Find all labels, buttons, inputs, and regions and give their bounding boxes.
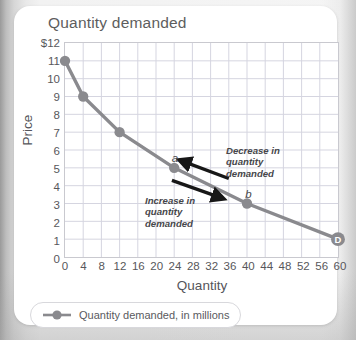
annotation-decrease-line1: Decrease in: [226, 145, 280, 156]
legend-label: Quantity demanded, in millions: [79, 309, 229, 321]
y-tick-label: 6: [54, 145, 60, 157]
annotation-arrows: [65, 43, 338, 257]
x-tick-label: 32: [205, 260, 218, 272]
x-tick-label: 16: [132, 260, 145, 272]
x-tick-label: 52: [297, 260, 310, 272]
annotation-decrease-line2: quantity: [226, 156, 280, 167]
annotation-increase: Increase in quantity demanded: [145, 195, 195, 229]
x-tick-label: 0: [62, 260, 68, 272]
point-label-b: b: [245, 188, 251, 200]
y-tick-label: 3: [54, 199, 60, 211]
annotation-increase-line2: quantity: [145, 206, 195, 217]
x-tick-label: 8: [98, 260, 104, 272]
y-tick-label: 7: [54, 127, 60, 139]
y-tick-label: 9: [54, 91, 60, 103]
y-tick-label: 5: [54, 163, 60, 175]
x-tick-label: 20: [150, 260, 163, 272]
point-label-a: a: [172, 152, 178, 164]
plot-area: D 01234567891011$12 04812162024283236404…: [64, 42, 339, 258]
x-tick-label: 44: [260, 260, 273, 272]
annotation-decrease: Decrease in quantity demanded: [226, 145, 280, 179]
x-tick-label: 4: [80, 260, 86, 272]
legend-marker-icon: [42, 309, 72, 321]
y-tick-label: $12: [41, 37, 60, 49]
y-tick-label: 0: [54, 253, 60, 265]
x-tick-label: 36: [224, 260, 237, 272]
x-tick-label: 24: [169, 260, 182, 272]
y-tick-label: 4: [54, 181, 60, 193]
y-tick-label: 8: [54, 109, 60, 121]
x-tick-label: 40: [242, 260, 255, 272]
page-title: Quantity demanded: [48, 14, 187, 32]
chart-legend: Quantity demanded, in millions: [30, 302, 241, 328]
annotation-increase-line3: demanded: [145, 218, 195, 229]
annotation-increase-line1: Increase in: [145, 195, 195, 206]
x-axis-label: Quantity: [177, 278, 227, 293]
x-tick-label: 28: [187, 260, 200, 272]
y-tick-label: 11: [48, 55, 60, 67]
y-axis-label: Price: [20, 115, 35, 146]
x-tick-label: 56: [315, 260, 328, 272]
y-tick-label: 10: [47, 73, 60, 85]
x-tick-label: 12: [114, 260, 127, 272]
y-tick-label: 1: [54, 235, 60, 247]
x-tick-label: 60: [334, 260, 347, 272]
chart-card: Quantity demanded Price Quantity D 01234…: [14, 6, 337, 325]
annotation-decrease-line3: demanded: [226, 168, 280, 179]
y-tick-label: 2: [54, 217, 60, 229]
x-tick-label: 48: [279, 260, 292, 272]
